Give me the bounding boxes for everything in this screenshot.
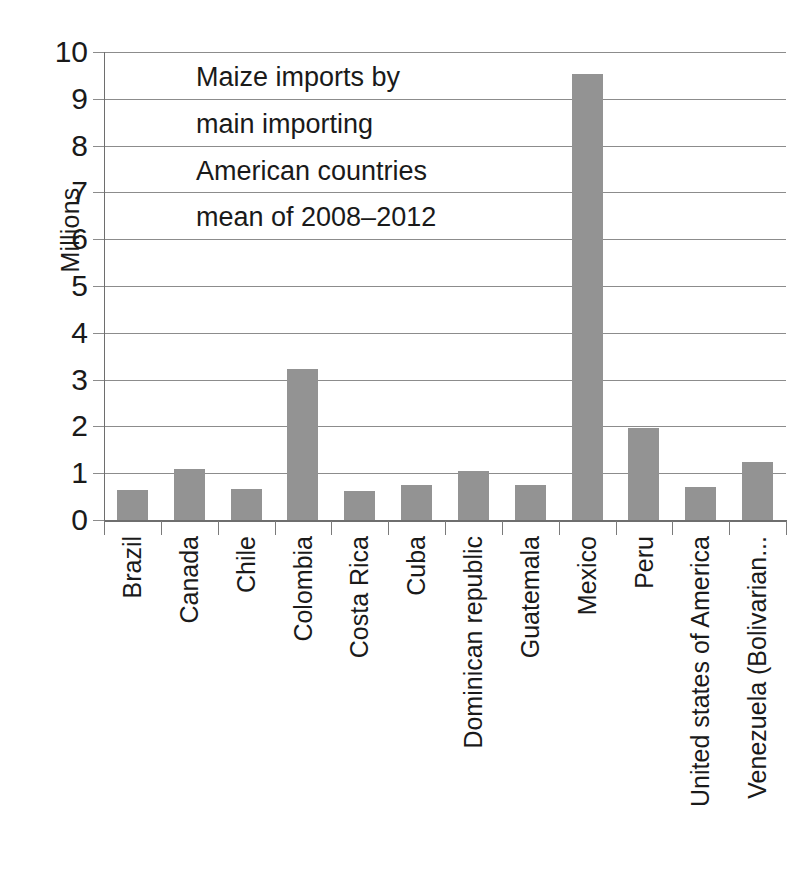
y-axis-tick-mark [93, 333, 104, 334]
x-axis-category-labels: BrazilCanadaChileColombiaCosta RicaCubaD… [104, 536, 787, 876]
y-axis-tick-mark [93, 146, 104, 147]
chart-title-line: American countries [196, 148, 526, 195]
chart-title-line: mean of 2008–2012 [196, 194, 526, 241]
x-axis-category-label: Peru [616, 536, 673, 872]
chart-title: Maize imports bymain importingAmerican c… [196, 54, 526, 241]
y-axis-tick-mark [93, 520, 104, 521]
bar [231, 489, 262, 520]
y-axis-tick-label: 6 [42, 224, 88, 254]
x-axis-category-label-text: Costa Rica [346, 536, 372, 658]
y-axis-tick-mark [93, 239, 104, 240]
x-axis-category-label: Venezuela (Bolivarian... [729, 536, 786, 872]
x-axis-tick-mark [559, 521, 560, 535]
y-axis-tick-label: 5 [42, 271, 88, 301]
x-axis-category-label: Canada [161, 536, 218, 872]
y-axis-tick-label: 4 [42, 318, 88, 348]
x-axis-category-label-text: United states of America [687, 536, 713, 807]
x-axis-category-label: Chile [218, 536, 275, 872]
chart-title-line: Maize imports by [196, 54, 526, 101]
x-axis-category-label-text: Colombia [290, 536, 316, 642]
x-axis-tick-mark [104, 521, 105, 535]
x-axis-tick-mark [388, 521, 389, 535]
bar [458, 471, 489, 520]
y-axis-tick-labels: 109876543210 [42, 0, 88, 540]
bar [685, 487, 716, 520]
bar [401, 485, 432, 520]
x-axis-tick-mark [331, 521, 332, 535]
y-axis-tick-mark [93, 52, 104, 53]
bar [344, 491, 375, 520]
y-axis-tick-label: 0 [42, 505, 88, 535]
x-axis-tick-mark [275, 521, 276, 535]
bar [287, 369, 318, 520]
y-axis-tick-label: 8 [42, 131, 88, 161]
y-axis-tick-label: 10 [42, 37, 88, 67]
x-axis-category-label-text: Cuba [403, 536, 429, 596]
chart-title-line: main importing [196, 101, 526, 148]
x-axis-tick-mark [161, 521, 162, 535]
x-axis-tick-mark [729, 521, 730, 535]
x-axis-tick-mark [502, 521, 503, 535]
x-axis-tick-mark [786, 521, 787, 535]
x-axis-category-label-text: Venezuela (Bolivarian... [744, 536, 770, 799]
y-axis-tick-mark [93, 380, 104, 381]
y-axis-tick-mark [93, 473, 104, 474]
x-axis-category-label-text: Guatemala [517, 536, 543, 658]
x-axis-category-label: Brazil [104, 536, 161, 872]
x-axis-category-label: Colombia [275, 536, 332, 872]
x-axis-tick-mark [218, 521, 219, 535]
x-axis-category-label: Costa Rica [331, 536, 388, 872]
y-axis-tick-label: 1 [42, 458, 88, 488]
x-axis-tick-mark [672, 521, 673, 535]
y-axis-tick-mark [93, 192, 104, 193]
y-axis-tick-label: 9 [42, 84, 88, 114]
bar [515, 485, 546, 520]
x-axis-tick-marks [104, 521, 787, 535]
bar [572, 74, 603, 520]
x-axis-category-label: Dominican republic [445, 536, 502, 872]
y-axis-tick-mark [93, 426, 104, 427]
x-axis-category-label-text: Mexico [574, 536, 600, 615]
x-axis-category-label-text: Peru [631, 536, 657, 589]
y-axis-tick-mark [93, 99, 104, 100]
x-axis-category-label-text: Canada [176, 536, 202, 624]
y-axis-tick-label: 2 [42, 411, 88, 441]
x-axis-category-label-text: Chile [233, 536, 259, 593]
bar [117, 490, 148, 520]
x-axis-category-label: Cuba [388, 536, 445, 872]
x-axis-category-label: United states of America [672, 536, 729, 872]
bar [174, 469, 205, 520]
x-axis-tick-mark [616, 521, 617, 535]
bar [742, 462, 773, 520]
y-axis-tick-label: 3 [42, 365, 88, 395]
x-axis-category-label-text: Brazil [119, 536, 145, 599]
x-axis-category-label: Guatemala [502, 536, 559, 872]
x-axis-tick-mark [445, 521, 446, 535]
bar [628, 428, 659, 520]
y-axis-tick-mark [93, 286, 104, 287]
bar-chart: Millions 109876543210 BrazilCanadaChileC… [0, 0, 796, 881]
y-axis-tick-label: 7 [42, 177, 88, 207]
x-axis-category-label-text: Dominican republic [460, 536, 486, 749]
x-axis-category-label: Mexico [559, 536, 616, 872]
